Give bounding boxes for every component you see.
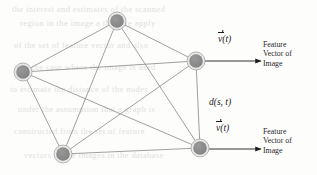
feature-line: Feature	[263, 127, 292, 136]
node-disc	[193, 141, 207, 155]
vector-symbol: v	[218, 33, 222, 44]
graph-edge	[31, 75, 192, 144]
node-disc	[110, 14, 124, 28]
node-disc	[56, 147, 70, 161]
graph-node-bottom-right[interactable]	[191, 139, 209, 157]
bottom-feature-vector-text: Feature Vector of Image	[263, 127, 292, 155]
graph-edge	[66, 29, 114, 146]
graph-node-bottom-left[interactable]	[54, 145, 72, 163]
feature-line: Image	[263, 59, 292, 68]
graph-edge	[27, 80, 60, 147]
feature-line: Vector of	[263, 49, 292, 58]
node-disc	[189, 54, 203, 68]
graph-node-top[interactable]	[108, 12, 126, 30]
vector-suffix: (t)	[220, 123, 229, 133]
vector-suffix: (t)	[222, 34, 231, 44]
feature-line: Vector of	[263, 136, 292, 145]
graph-edge	[31, 62, 187, 72]
graph-edges	[27, 25, 200, 154]
graph-edge	[122, 28, 196, 141]
graph-edge	[30, 25, 109, 68]
graph-edge	[70, 66, 189, 149]
feature-line: Feature	[263, 40, 292, 49]
graph-edge	[71, 148, 191, 153]
graph-node-left[interactable]	[14, 63, 32, 81]
node-disc	[16, 65, 30, 79]
bottom-vector-label: v(t)	[216, 122, 229, 133]
graph-node-right-upper[interactable]	[187, 52, 205, 70]
feature-line: Image	[263, 146, 292, 155]
top-vector-label: v(t)	[218, 33, 231, 44]
graph-edge	[196, 69, 199, 139]
figure-container: the interest and estimates of the scanne…	[0, 0, 317, 175]
top-feature-vector-text: Feature Vector of Image	[263, 40, 292, 68]
distance-label: d(s, t)	[209, 97, 231, 107]
graph-edge	[125, 25, 189, 57]
vector-symbol: v	[216, 122, 220, 133]
